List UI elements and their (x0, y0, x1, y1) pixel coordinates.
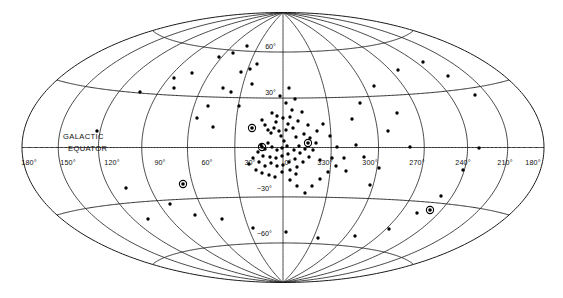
source-point (395, 111, 398, 114)
sky-map-svg: 180°150°120°90°60°30°0°330°300°270°240°2… (0, 0, 563, 298)
circled-source-point (304, 139, 311, 146)
source-point (477, 146, 480, 149)
source-point (303, 147, 306, 150)
source-point (306, 123, 309, 126)
source-point (461, 168, 464, 171)
longitude-tick-label: 330° (317, 158, 332, 167)
source-point (386, 129, 389, 132)
source-point (300, 110, 303, 113)
galactic-equator-annotation: GALACTIC EQUATOR (63, 132, 107, 153)
source-point-core (306, 141, 310, 145)
source-point (229, 90, 232, 93)
source-point-core (181, 182, 185, 186)
source-point (269, 131, 272, 134)
source-point (302, 132, 305, 135)
source-point (301, 160, 304, 163)
source-point (254, 168, 257, 171)
source-point (372, 84, 375, 87)
source-point (387, 227, 390, 230)
source-point (285, 144, 288, 147)
source-point (248, 67, 251, 70)
latitude-tick-label: 30° (265, 88, 276, 97)
source-point (270, 111, 273, 114)
source-point (237, 104, 240, 107)
source-point (328, 134, 331, 137)
source-point (255, 62, 258, 65)
source-point (290, 108, 293, 111)
source-point (260, 118, 263, 121)
all-sky-map: 180°150°120°90°60°30°0°330°300°270°240°2… (0, 0, 563, 298)
source-point (288, 115, 291, 118)
source-point (263, 123, 266, 126)
source-point (415, 211, 418, 214)
latitude-tick-label: −60° (257, 229, 272, 238)
longitude-tick-label: 120° (104, 158, 119, 167)
source-point (146, 217, 149, 220)
longitude-tick-label: 60° (201, 158, 212, 167)
source-point (172, 76, 175, 79)
source-point (281, 116, 284, 119)
source-point (295, 165, 298, 168)
longitude-tick-label: 0° (284, 158, 291, 167)
source-point (280, 146, 283, 149)
source-point (297, 144, 300, 147)
circled-source-point (426, 206, 433, 213)
longitude-tick-label: 30° (244, 158, 255, 167)
source-point (256, 150, 259, 153)
source-point-core (428, 208, 432, 212)
source-point (211, 125, 214, 128)
source-point (321, 122, 324, 125)
source-point (288, 168, 291, 171)
source-point (296, 119, 299, 122)
source-point (261, 154, 264, 157)
source-point (263, 164, 266, 167)
source-point (344, 169, 347, 172)
longitude-tick-label: 180° (525, 158, 540, 167)
galactic-equator-label-line2: EQUATOR (68, 144, 107, 153)
source-point (286, 152, 289, 155)
source-point (280, 170, 283, 173)
source-points-layer (95, 44, 480, 239)
source-point (293, 157, 296, 160)
source-point (396, 68, 399, 71)
source-point (266, 141, 269, 144)
source-point (275, 114, 278, 117)
source-point (284, 230, 287, 233)
source-point (277, 129, 280, 132)
source-point (206, 104, 209, 107)
circled-source-point (179, 180, 186, 187)
source-point (220, 217, 223, 220)
latitude-tick-label: −30° (257, 184, 272, 193)
latitude-tick-label: 60° (265, 42, 276, 51)
source-point (368, 183, 371, 186)
source-point (274, 120, 277, 123)
source-point (353, 234, 356, 237)
source-point (288, 178, 291, 181)
longitude-tick-label: 270° (409, 158, 424, 167)
source-point (279, 134, 282, 137)
source-point (350, 117, 353, 120)
source-point (326, 170, 329, 173)
source-point (251, 226, 254, 229)
source-point (278, 94, 281, 97)
longitude-tick-label: 150° (60, 158, 75, 167)
source-point (307, 155, 310, 158)
source-point (292, 148, 295, 151)
source-point (138, 90, 141, 93)
source-point-core (260, 145, 264, 149)
source-point (316, 236, 319, 239)
source-point (269, 161, 272, 164)
source-point (195, 116, 198, 119)
source-point (286, 122, 289, 125)
source-point (284, 128, 287, 131)
source-point (439, 194, 442, 197)
source-point (408, 145, 411, 148)
longitude-tick-label: 90° (154, 158, 165, 167)
source-point (446, 74, 449, 77)
source-point (298, 151, 301, 154)
source-point (172, 86, 175, 89)
source-point (335, 145, 338, 148)
source-point (217, 55, 220, 58)
source-point (239, 70, 242, 73)
source-point (193, 213, 196, 216)
